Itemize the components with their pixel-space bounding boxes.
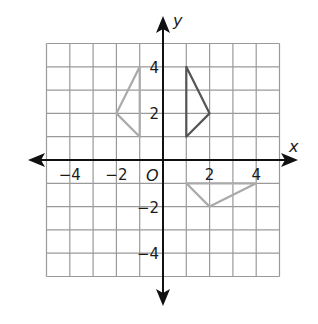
coordinate-plane: y x O −4−22442−2−4 (0, 0, 318, 324)
x-axis-label: x (288, 137, 299, 156)
y-axis-label: y (172, 11, 183, 30)
x-tick-label: −2 (105, 166, 127, 184)
y-tick-label: −4 (137, 245, 159, 263)
x-tick-label: 2 (205, 166, 215, 184)
y-tick-label: −2 (137, 199, 159, 217)
y-tick-label: 2 (149, 105, 159, 123)
original-triangle (186, 67, 209, 137)
reflected-triangle-left (116, 67, 139, 137)
x-tick-label: −4 (59, 166, 81, 184)
rotated-triangle-bottom (186, 183, 256, 206)
origin-label: O (146, 166, 159, 185)
axes: y x O (28, 11, 299, 306)
x-tick-label: 4 (251, 166, 261, 184)
y-tick-label: 4 (149, 59, 159, 77)
